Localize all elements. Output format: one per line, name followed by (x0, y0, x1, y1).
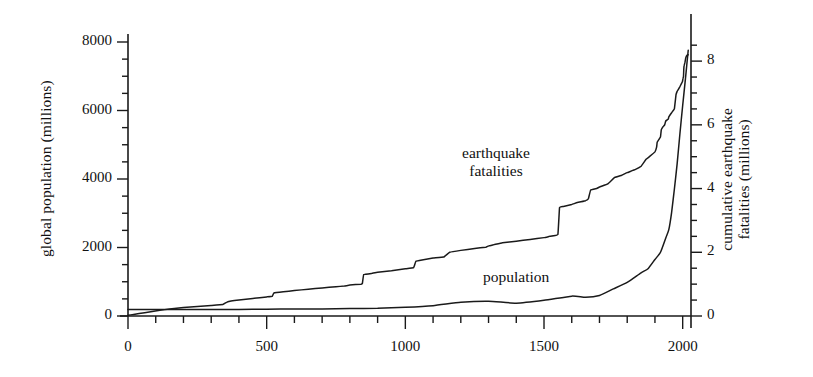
left-axis-tick-label: 2000 (52, 238, 112, 255)
earthquake-fatalities-curve (128, 55, 688, 316)
right-axis-tick-label: 2 (707, 242, 737, 259)
bottom-axis-tick-label: 1500 (509, 338, 579, 355)
left-axis-tick-label: 0 (52, 306, 112, 323)
axis-lines (120, 14, 691, 328)
earthquake-series-label-line2: fatalities (462, 162, 530, 180)
population-curve (128, 50, 688, 309)
earthquake-series-label-line1: earthquake (462, 144, 530, 162)
left-axis-ticks (117, 42, 128, 316)
earthquake-series-label: earthquake fatalities (462, 144, 530, 179)
right-axis-tick-label: 8 (707, 51, 737, 68)
left-axis-tick-label: 6000 (52, 101, 112, 118)
right-axis-ticks (691, 45, 702, 316)
left-axis-tick-label: 4000 (52, 169, 112, 186)
chart-canvas (0, 0, 813, 377)
bottom-axis-tick-label: 500 (232, 338, 302, 355)
earthquake-population-figure: global population (millions) cumulative … (0, 0, 813, 377)
left-axis-tick-label: 8000 (52, 32, 112, 49)
right-axis-tick-label: 6 (707, 115, 737, 132)
right-axis-tick-label: 4 (707, 179, 737, 196)
population-series-label: population (483, 268, 549, 286)
right-axis-tick-label: 0 (707, 306, 737, 323)
bottom-axis-tick-label: 1000 (370, 338, 440, 355)
bottom-axis-ticks (128, 316, 683, 329)
bottom-axis-tick-label: 2000 (648, 338, 718, 355)
bottom-axis-tick-label: 0 (93, 338, 163, 355)
right-axis-title-line2: fatalities (millions) (735, 29, 752, 329)
